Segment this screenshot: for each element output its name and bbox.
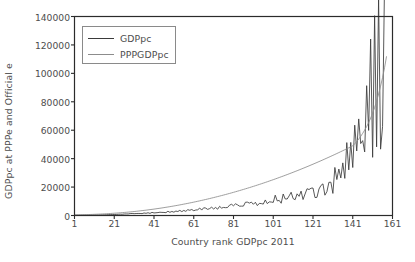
legend-item-gdppc: GDPpc bbox=[88, 30, 151, 46]
x-tick-label: 141 bbox=[344, 218, 362, 229]
legend-label-gdppc: GDPpc bbox=[120, 33, 151, 44]
chart-figure: GDPpc at PPPe and Official e 02000040000… bbox=[0, 0, 415, 262]
x-tick-label: 81 bbox=[228, 218, 240, 229]
legend-swatch-pppgdppc bbox=[88, 54, 114, 55]
x-tick-label: 161 bbox=[384, 218, 402, 229]
x-axis-label: Country rank GDPpc 2011 bbox=[74, 236, 392, 247]
legend-swatch-gdppc bbox=[88, 38, 114, 39]
x-tick-label: 41 bbox=[148, 218, 160, 229]
legend-item-pppgdppc: PPPGDPpc bbox=[88, 46, 169, 62]
chart-legend: GDPpc PPPGDPpc bbox=[82, 26, 176, 64]
x-tick-label: 21 bbox=[108, 218, 120, 229]
x-tick-label: 121 bbox=[304, 218, 322, 229]
series-line-pppgdppc bbox=[75, 56, 387, 215]
x-tick-label: 101 bbox=[264, 218, 282, 229]
x-tick-label: 61 bbox=[188, 218, 200, 229]
x-tick-label: 1 bbox=[72, 218, 78, 229]
legend-label-pppgdppc: PPPGDPpc bbox=[120, 49, 169, 60]
